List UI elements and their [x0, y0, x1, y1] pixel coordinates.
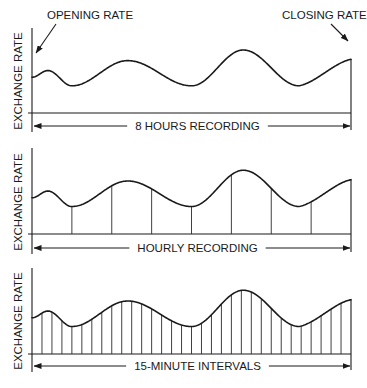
x-axis-label: 8 HOURS RECORDING	[135, 120, 260, 132]
closing-rate-label: CLOSING RATE	[282, 9, 367, 21]
panel-15-minute-intervals: EXCHANGE RATE15-MINUTE INTERVALS	[12, 268, 351, 372]
y-axis-label: EXCHANGE RATE	[12, 272, 24, 370]
x-axis-label: HOURLY RECORDING	[137, 242, 257, 254]
x-axis-label: 15-MINUTE INTERVALS	[134, 360, 261, 372]
exchange-rate-curve	[32, 50, 351, 86]
opening-rate-label: OPENING RATE	[47, 9, 133, 21]
exchange-rate-curve	[32, 170, 351, 206]
closing-rate-arrow-icon	[331, 24, 348, 41]
exchange-rate-curve	[32, 290, 351, 326]
opening-rate-arrow-icon	[36, 24, 56, 53]
panel-8-hours-recording: EXCHANGE RATE8 HOURS RECORDING	[12, 28, 351, 132]
y-axis-label: EXCHANGE RATE	[12, 32, 24, 130]
panel-hourly-recording: EXCHANGE RATEHOURLY RECORDING	[12, 148, 351, 254]
exchange-rate-sampling-diagram: OPENING RATE CLOSING RATE EXCHANGE RATE8…	[0, 0, 367, 388]
y-axis-label: EXCHANGE RATE	[12, 153, 24, 251]
